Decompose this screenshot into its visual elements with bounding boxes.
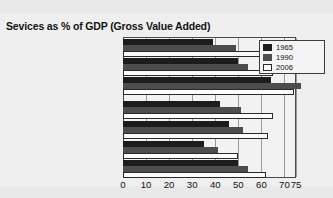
scan-texture-band (0, 0, 333, 14)
legend-swatch-icon (263, 64, 272, 71)
bar-2006-3 (123, 113, 273, 119)
legend-swatch-icon (263, 54, 272, 61)
bar-2006-2 (123, 89, 294, 95)
x-tick-label: 10 (141, 179, 152, 190)
legend-item-1990: 1990 (263, 53, 321, 62)
x-tick-label: 50 (233, 179, 244, 190)
x-tick-label: 70 (279, 179, 290, 190)
legend-item-2006: 2006 (263, 63, 321, 72)
legend-label: 1965 (276, 44, 293, 52)
chart-title: Sevices as % of GDP (Gross Value Added) (6, 20, 210, 32)
legend-label: 1990 (276, 54, 293, 62)
bar-2006-6 (123, 172, 266, 178)
legend-swatch-icon (263, 44, 272, 51)
x-tick-label: 75 (291, 179, 302, 190)
x-tick-label: 0 (120, 179, 125, 190)
bar-2006-1 (123, 70, 273, 76)
bar-2006-4 (123, 133, 268, 139)
bar-2006-0 (123, 51, 268, 57)
x-tick-label: 40 (210, 179, 221, 190)
x-tick-label: 30 (187, 179, 198, 190)
x-tick-label: 20 (164, 179, 175, 190)
x-axis: 01020304050607075 (0, 179, 333, 195)
bar-2006-5 (123, 153, 238, 159)
x-tick-label: 60 (256, 179, 267, 190)
chart-legend: 196519902006 (259, 40, 325, 74)
services-gdp-bar-chart: Sevices as % of GDP (Gross Value Added) … (0, 0, 333, 198)
legend-label: 2006 (276, 64, 293, 72)
legend-item-1965: 1965 (263, 43, 321, 52)
